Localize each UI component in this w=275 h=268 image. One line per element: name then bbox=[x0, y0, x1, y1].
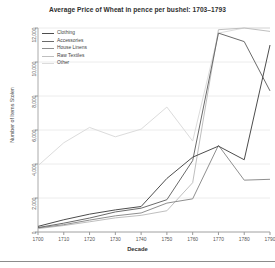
legend-item-label: House Linens bbox=[57, 46, 87, 51]
x-tick-label: 1770 bbox=[206, 237, 230, 242]
legend-swatch-icon bbox=[42, 33, 54, 34]
series-line-house-linens bbox=[38, 145, 270, 228]
legend-item-accessories[interactable]: Accessories bbox=[42, 38, 83, 45]
x-tick-label: 1700 bbox=[26, 237, 50, 242]
legend-item-label: Raw Textiles bbox=[57, 54, 84, 59]
legend-item-other[interactable]: Other bbox=[42, 60, 69, 67]
legend-swatch-icon bbox=[42, 48, 54, 49]
y-tick-label: 0 bbox=[32, 232, 37, 262]
legend-item-label: Clothing bbox=[57, 31, 75, 36]
y-tick-label: 2,000 bbox=[32, 198, 37, 228]
y-tick-label: 12,000 bbox=[32, 28, 37, 58]
legend-item-raw-textiles[interactable]: Raw Textiles bbox=[42, 53, 84, 60]
y-tick-label: 6,000 bbox=[32, 130, 37, 160]
chart-figure: Average Price of Wheat in pence per bush… bbox=[0, 0, 275, 268]
x-tick-label: 1740 bbox=[129, 237, 153, 242]
series-line-clothing bbox=[38, 45, 270, 226]
x-tick-label: 1780 bbox=[232, 237, 256, 242]
x-tick-label: 1730 bbox=[103, 237, 127, 242]
legend-swatch-icon bbox=[42, 63, 54, 64]
legend-item-clothing[interactable]: Clothing bbox=[42, 30, 75, 37]
legend-swatch-icon bbox=[42, 56, 54, 57]
y-tick-label: 8,000 bbox=[32, 96, 37, 126]
legend-item-house-linens[interactable]: House Linens bbox=[42, 45, 87, 52]
y-axis-label: Number of Items Stolen bbox=[9, 67, 15, 163]
legend-item-label: Other bbox=[57, 61, 69, 66]
x-axis-label: Decade bbox=[0, 246, 275, 252]
y-tick-label: 4,000 bbox=[32, 164, 37, 194]
x-tick-label: 1720 bbox=[78, 237, 102, 242]
x-tick-label: 1750 bbox=[155, 237, 179, 242]
bottom-divider bbox=[0, 261, 275, 262]
x-tick-label: 1710 bbox=[52, 237, 76, 242]
legend-swatch-icon bbox=[42, 41, 54, 42]
legend-item-label: Accessories bbox=[57, 39, 83, 44]
y-tick-label: 10,000 bbox=[32, 62, 37, 92]
x-tick-label: 1760 bbox=[181, 237, 205, 242]
x-tick-label: 1790 bbox=[258, 237, 275, 242]
